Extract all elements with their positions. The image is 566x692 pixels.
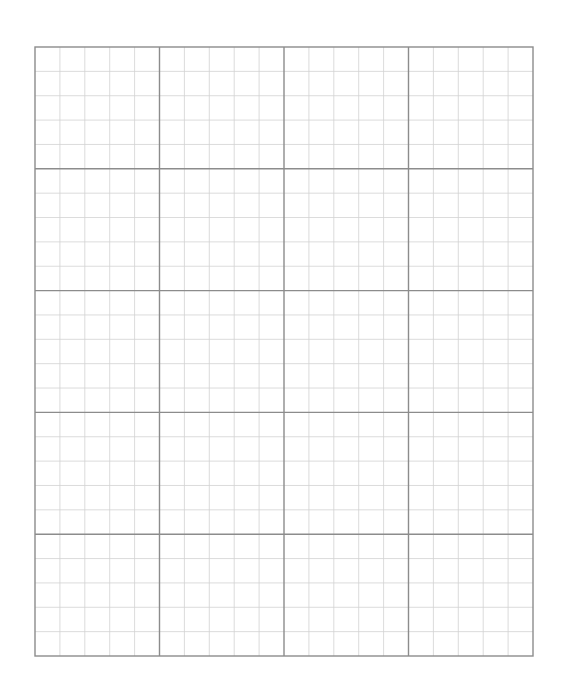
- graph-paper-grid: [0, 0, 566, 692]
